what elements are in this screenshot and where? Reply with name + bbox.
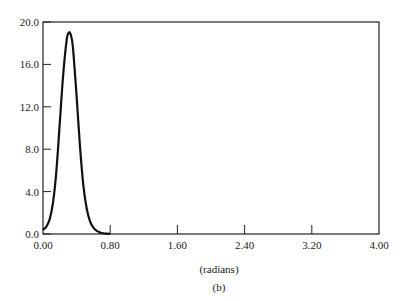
x-tick-label: 3.20 (302, 239, 322, 251)
data-curve (43, 32, 110, 234)
x-tick-label: 0.00 (33, 239, 53, 251)
x-tick-label: 1.60 (168, 239, 188, 251)
x-axis-ticks: 0.000.801.602.403.204.00 (33, 225, 389, 251)
x-axis-label: (radians) (159, 263, 279, 275)
x-tick-label: 2.40 (235, 239, 255, 251)
figure-caption: (b) (159, 281, 279, 293)
x-tick-label: 0.80 (101, 239, 121, 251)
chart-plot: 0.04.08.012.016.020.0 0.000.801.602.403.… (0, 0, 406, 301)
x-tick-label: 4.00 (369, 239, 389, 251)
y-tick-label: 16.0 (20, 58, 40, 70)
y-tick-label: 8.0 (25, 143, 39, 155)
y-tick-label: 12.0 (20, 101, 40, 113)
plot-frame (43, 22, 379, 234)
y-axis-ticks: 0.04.08.012.016.020.0 (20, 16, 51, 240)
y-tick-label: 20.0 (20, 16, 40, 28)
y-tick-label: 4.0 (25, 186, 39, 198)
